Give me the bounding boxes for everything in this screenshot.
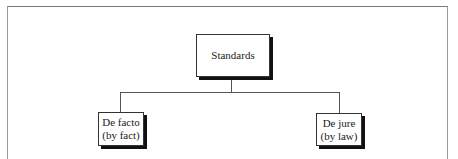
node-standards: Standards xyxy=(196,34,270,77)
node-de-jure-label: De jure (by law) xyxy=(321,117,358,143)
node-de-facto: De facto (by fact) xyxy=(98,112,144,146)
connector-left-down xyxy=(120,92,121,112)
node-de-jure: De jure (by law) xyxy=(316,113,362,146)
node-standards-label: Standards xyxy=(211,49,254,62)
figure-frame xyxy=(7,6,448,159)
connector-horizontal xyxy=(120,92,340,93)
connector-root-down xyxy=(231,77,232,92)
connector-right-down xyxy=(339,92,340,113)
node-de-facto-label: De facto (by fact) xyxy=(102,116,140,142)
